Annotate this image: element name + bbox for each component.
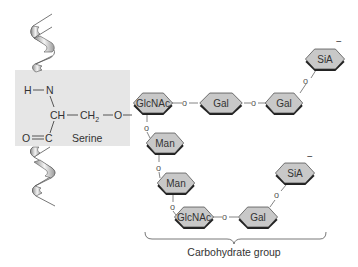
protein-helix-top [31, 14, 55, 72]
atom-n: N [46, 84, 54, 96]
atom-c: C [45, 132, 53, 144]
svg-text:o: o [170, 202, 175, 212]
carbohydrate-bracket [145, 232, 326, 244]
sugar-label: Gal [276, 98, 292, 109]
atom-h: H [24, 84, 32, 96]
sugar-label: SiA [287, 168, 303, 179]
svg-text:o: o [144, 123, 149, 133]
svg-text:o: o [303, 76, 308, 86]
sugar-label: Man [166, 178, 185, 189]
sugar-label: GlcNAc [136, 98, 170, 109]
serine-label: Serine [72, 132, 103, 144]
atom-o-double: O [22, 132, 30, 144]
svg-text:o: o [222, 212, 227, 222]
carbohydrate-group-label: Carbohydrate group [187, 246, 281, 258]
svg-text:o: o [274, 190, 279, 200]
negative-charge: − [307, 151, 313, 162]
sugar-label: GlcNAc [177, 212, 211, 223]
svg-text:o: o [156, 163, 161, 173]
svg-text:o: o [251, 98, 256, 108]
sugar-label: Man [155, 138, 174, 149]
svg-text:o: o [182, 98, 187, 108]
protein-helix-bottom [30, 147, 55, 206]
sugar-label: SiA [317, 54, 333, 65]
atom-ch: CH [50, 109, 65, 121]
atom-o-link: O [114, 109, 122, 121]
negative-charge: − [336, 36, 342, 47]
glycoprotein-diagram: H N CH CH2 O O C Serine o o o o [0, 0, 358, 267]
sugar-label: Gal [213, 98, 229, 109]
sugar-label: Gal [250, 212, 266, 223]
